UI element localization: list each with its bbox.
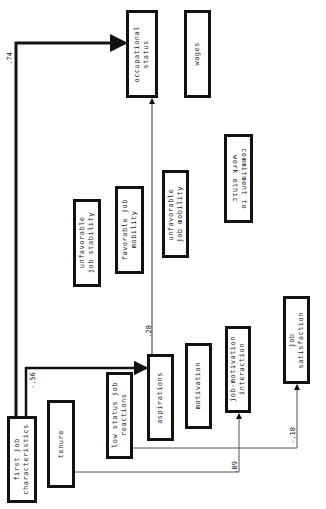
node-fav-mobility: favorable job mobility	[115, 186, 144, 274]
node-label: tenure	[57, 430, 66, 458]
coef-tenure-job-motivation: .09	[231, 461, 239, 474]
node-label: aspirations	[156, 372, 165, 424]
node-wages: wages	[184, 10, 211, 98]
node-label: job-motivation interaction	[229, 336, 247, 402]
node-label: commitment to work ethic	[230, 148, 248, 209]
node-unfav-stability: unfavorable job stability	[73, 199, 101, 287]
node-label: first job characteristics	[13, 424, 31, 495]
edge-first-job-occupational	[16, 43, 125, 416]
node-label: unfavorable job stability	[78, 212, 96, 273]
node-label: favorable job mobility	[121, 199, 139, 260]
node-unfav-mobility: unfavorable job mobility	[162, 170, 189, 258]
node-label: motivation	[194, 362, 203, 409]
node-label: unfavorable job mobility	[167, 186, 185, 243]
node-label: low status job reactions	[111, 382, 129, 448]
node-low-status: low status job reactions	[106, 372, 133, 459]
coef-first-job-occupational: .74	[6, 52, 14, 65]
node-label: job satisfaction	[288, 312, 306, 369]
coef-low-status-job-satisfaction: -.18	[289, 427, 297, 444]
node-first-job: first job characteristics	[7, 416, 37, 503]
node-tenure: tenure	[47, 400, 75, 488]
node-job-motivation: job-motivation interaction	[225, 326, 251, 413]
node-occupational-status: occupational status	[126, 10, 158, 98]
node-motivation: motivation	[185, 343, 212, 429]
node-label: occupational status	[133, 26, 151, 83]
node-commitment: commitment to work ethic	[224, 134, 253, 223]
node-job-satisfaction: job satisfaction	[283, 296, 310, 384]
node-aspirations: aspirations	[147, 354, 174, 441]
node-label: wages	[193, 42, 202, 66]
coef-aspirations-occupational: .28	[145, 325, 153, 338]
coef-first-job-aspirations: -.56	[29, 372, 37, 389]
